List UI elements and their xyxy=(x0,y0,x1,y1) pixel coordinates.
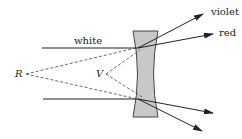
virtual-ray-red-bottom xyxy=(26,74,142,100)
label-red: red xyxy=(219,27,237,38)
label-white: white xyxy=(74,35,102,46)
label-V: V xyxy=(96,68,105,79)
label-R: R xyxy=(14,68,23,79)
label-violet: violet xyxy=(210,6,239,17)
dispersion-diagram: white violet red R V xyxy=(0,0,242,139)
virtual-ray-red-top xyxy=(26,47,140,74)
